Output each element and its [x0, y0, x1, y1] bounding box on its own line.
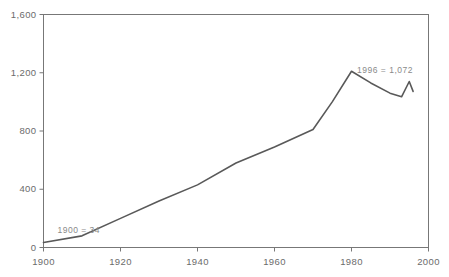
x-tick-label: 1960	[245, 256, 305, 267]
x-tick-label: 1900	[14, 256, 74, 267]
annotation-label: 1900 = 34	[58, 225, 101, 235]
y-tick-label: 400	[19, 183, 36, 194]
line-chart-figure: 04008001,2001,600 1900192019401960198020…	[0, 0, 449, 277]
x-tick-label: 1920	[91, 256, 151, 267]
y-tick-label: 800	[19, 125, 36, 136]
y-tick-label: 1,200	[11, 67, 37, 78]
annotation-label: 1996 = 1,072	[357, 65, 413, 75]
data-line-value	[44, 71, 414, 242]
x-tick-label: 1980	[322, 256, 382, 267]
y-tick-label: 1,600	[11, 9, 37, 20]
x-tick-label: 2000	[399, 256, 449, 267]
plot-area	[0, 0, 449, 277]
x-tick-label: 1940	[168, 256, 228, 267]
plot-frame	[44, 15, 429, 248]
y-tick-label: 0	[31, 242, 37, 253]
